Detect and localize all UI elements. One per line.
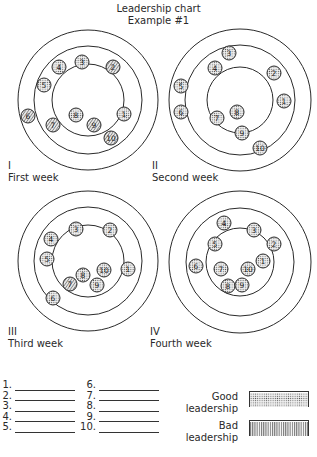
member-node-7: 7 (210, 111, 224, 125)
blank-line[interactable] (99, 384, 159, 391)
member-number: 3 (74, 225, 79, 234)
name-blanks-right: 6. 7. 8. 9. 10. (80, 380, 159, 433)
member-number: 9 (240, 281, 245, 290)
blank-number: 5. (2, 422, 12, 433)
member-node-2: 2 (267, 66, 281, 80)
member-number: 8 (235, 108, 240, 117)
legend-good-line2: leadership (178, 403, 238, 415)
member-number: 5 (45, 255, 50, 264)
member-number: 4 (57, 63, 62, 72)
member-node-9: 9 (235, 126, 249, 140)
diagram-4-numeral: IV (150, 326, 212, 338)
legend-bad-line1: Bad (178, 420, 238, 432)
name-blank[interactable]: 1. (2, 380, 75, 391)
member-node-10: 10 (104, 131, 118, 145)
member-number: 2 (272, 69, 277, 78)
blank-number: 6. (80, 380, 96, 391)
blank-line[interactable] (15, 405, 75, 412)
legend-bad-line2: leadership (178, 432, 238, 444)
member-node-5: 5 (174, 79, 188, 93)
member-number: 1 (122, 110, 127, 119)
hatched-pattern-icon (250, 422, 308, 436)
blank-line[interactable] (15, 384, 75, 391)
member-number: 8 (81, 271, 86, 280)
name-blanks-left: 1. 2. 3. 4. 5. (2, 380, 75, 433)
diagram-3-numeral: III (8, 326, 63, 338)
sociogram-3: 12345678910 (18, 191, 158, 331)
member-number: 3 (252, 226, 257, 235)
member-number: 5 (42, 81, 47, 90)
diagram-3-label: Third week (8, 338, 63, 350)
name-blank[interactable]: 8. (80, 401, 159, 412)
member-number: 2 (111, 63, 116, 72)
diagram-4-label: Fourth week (150, 338, 212, 350)
legend-good-label: Good leadership (178, 391, 238, 415)
blank-number: 1. (2, 380, 12, 391)
member-number: 1 (261, 257, 266, 266)
member-number: 8 (226, 282, 231, 291)
member-node-3: 3 (75, 55, 89, 69)
blank-line[interactable] (15, 394, 75, 401)
diagram-2-caption: II Second week (152, 160, 218, 184)
member-node-8: 8 (69, 108, 83, 122)
member-node-2: 2 (267, 237, 281, 251)
member-node-3: 3 (69, 222, 83, 236)
blank-number: 8. (80, 401, 96, 412)
member-node-5: 5 (37, 78, 51, 92)
blank-line[interactable] (15, 415, 75, 422)
blank-number: 3. (2, 401, 12, 412)
sociogram-1: 12345678910 (18, 30, 158, 170)
name-blank[interactable]: 3. (2, 401, 75, 412)
member-node-4: 4 (52, 60, 66, 74)
member-number: 6 (26, 112, 31, 121)
diagram-1-numeral: I (8, 160, 59, 172)
blank-line[interactable] (99, 394, 159, 401)
member-node-1: 1 (277, 94, 291, 108)
diagram-1-label: First week (8, 172, 59, 184)
member-node-3: 3 (222, 46, 236, 60)
name-blank[interactable]: 5. (2, 422, 75, 433)
member-node-5: 5 (208, 237, 222, 251)
member-number: 3 (227, 49, 232, 58)
blank-line[interactable] (99, 415, 159, 422)
member-node-1: 1 (256, 254, 270, 268)
member-node-6: 6 (21, 109, 35, 123)
member-number: 5 (179, 82, 184, 91)
member-number: 9 (240, 129, 245, 138)
member-number: 8 (74, 111, 79, 120)
diagram-1-caption: I First week (8, 160, 59, 184)
member-node-9: 9 (87, 118, 101, 132)
name-blank[interactable]: 6. (80, 380, 159, 391)
member-node-8: 8 (76, 268, 90, 282)
member-node-4: 4 (217, 216, 231, 230)
legend-bad-label: Bad leadership (178, 420, 238, 444)
member-node-6: 6 (189, 259, 203, 273)
member-number: 5 (213, 240, 218, 249)
member-number: 10 (243, 265, 253, 274)
member-number: 2 (272, 240, 277, 249)
legend-good-swatch (249, 391, 309, 407)
name-blank[interactable]: 4. (2, 412, 75, 423)
member-node-8: 8 (221, 279, 235, 293)
member-node-6: 6 (46, 291, 60, 305)
member-number: 1 (282, 97, 287, 106)
member-node-8: 8 (230, 105, 244, 119)
member-node-2: 2 (106, 60, 120, 74)
blank-line[interactable] (99, 426, 159, 433)
member-node-1: 1 (117, 107, 131, 121)
outer-ring (18, 191, 158, 331)
member-node-7: 7 (63, 277, 77, 291)
legend-good-line1: Good (178, 391, 238, 403)
name-blank[interactable]: 10. (80, 422, 159, 433)
blank-line[interactable] (15, 426, 75, 433)
member-number: 7 (68, 280, 73, 289)
member-number: 1 (126, 265, 131, 274)
blank-line[interactable] (99, 405, 159, 412)
member-number: 6 (51, 294, 56, 303)
member-number: 10 (99, 266, 109, 275)
member-node-7: 7 (46, 118, 60, 132)
member-number: 9 (92, 121, 97, 130)
name-blank[interactable]: 2. (2, 391, 75, 402)
member-number: 4 (49, 235, 54, 244)
member-node-10: 10 (253, 141, 267, 155)
